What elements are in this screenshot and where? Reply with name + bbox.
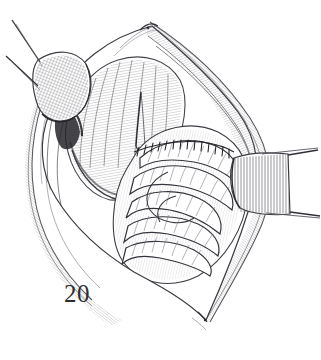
figure-number-label: 20 bbox=[64, 281, 90, 306]
surgical-illustration-canvas bbox=[0, 0, 321, 360]
figure-illustration: 20 bbox=[0, 0, 321, 360]
